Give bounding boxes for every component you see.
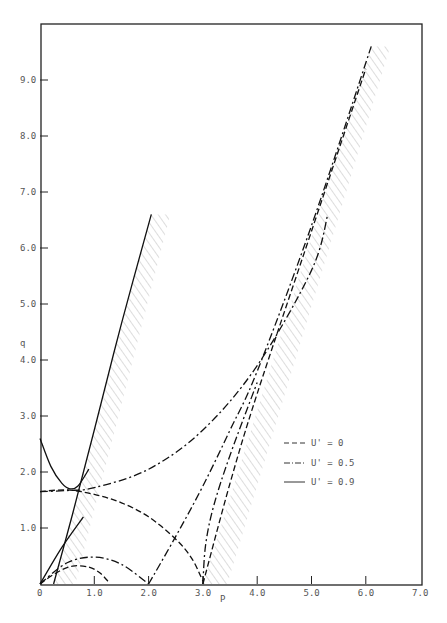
y-tick-label: 8.0 (20, 131, 36, 141)
x-tick-label: 7.0 (412, 588, 428, 598)
x-tick-label: 6.0 (358, 588, 374, 598)
curve-solid (54, 214, 152, 584)
x-tick-label: 2.0 (141, 588, 157, 598)
y-tick-label: 9.0 (20, 75, 36, 85)
legend-label-u0: U' = 0 (311, 438, 344, 448)
legend-label-u05: U' = 0.5 (311, 458, 354, 468)
legend: U' = 0 U' = 0.5 U' = 0.9 (284, 438, 354, 487)
x-tick-label: 1.0 (86, 588, 102, 598)
x-tick-label: 3.0 (195, 588, 211, 598)
y-axis-label: q (20, 338, 25, 348)
y-tick-label: 2.0 (20, 467, 36, 477)
y-tick-label: 4.0 (20, 355, 36, 365)
x-tick-label: 0 (37, 588, 42, 598)
hatched-regions (54, 46, 391, 584)
y-tick-label: 5.0 (20, 299, 36, 309)
y-tick-label: 7.0 (20, 187, 36, 197)
y-tick-label: 1.0 (20, 523, 36, 533)
x-axis-label: P (220, 594, 226, 604)
y-tick-label: 3.0 (20, 411, 36, 421)
x-tick-label: 4.0 (249, 588, 265, 598)
legend-label-u09: U' = 0.9 (311, 477, 354, 487)
phase-diagram-chart: 01.02.03.04.05.06.07.01.02.03.04.05.06.0… (0, 0, 447, 623)
curve-dash-dot (149, 46, 372, 584)
x-tick-label: 5.0 (304, 588, 320, 598)
y-tick-label: 6.0 (20, 243, 36, 253)
